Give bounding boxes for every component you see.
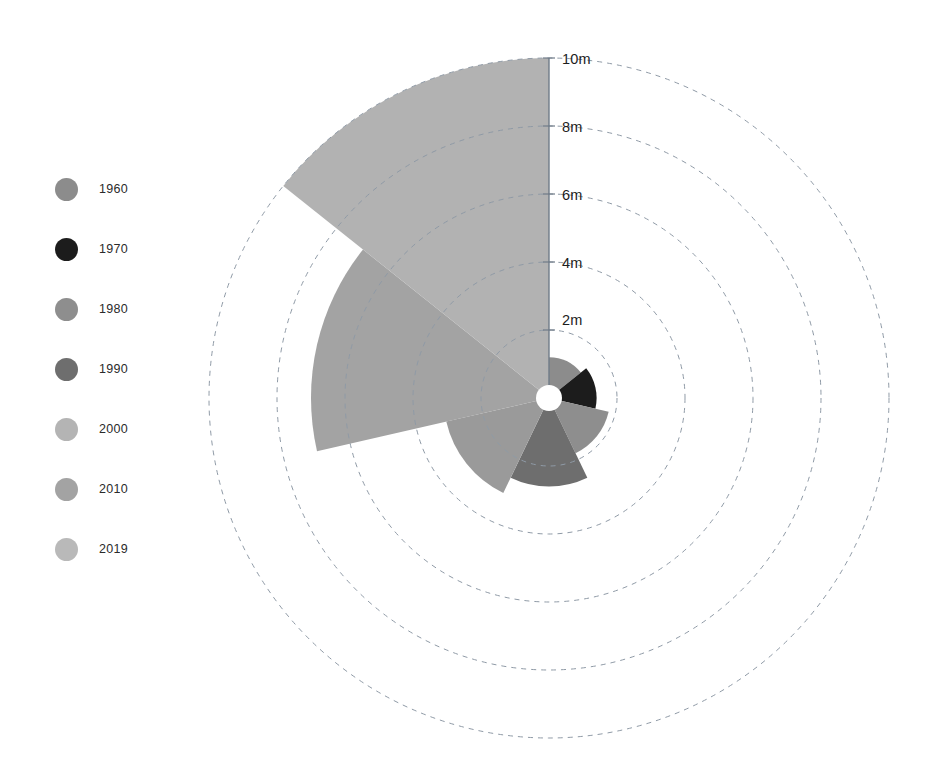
chart-center-hole [536, 385, 562, 411]
radial-tick-label-10m: 10m [562, 51, 591, 67]
legend-label: 1990 [99, 363, 128, 376]
legend-swatch-2000 [55, 418, 78, 441]
legend-item[interactable]: 2019 [55, 538, 195, 561]
radial-tick-label-6m: 6m [562, 187, 583, 203]
radial-tick-label-8m: 8m [562, 119, 583, 135]
legend-label: 1980 [99, 303, 128, 316]
radial-tick-label-2m: 2m [562, 312, 583, 328]
radial-tick-label-4m: 4m [562, 255, 583, 271]
legend-label: 1970 [99, 243, 128, 256]
legend-item[interactable]: 1960 [55, 178, 195, 201]
legend-item[interactable]: 1980 [55, 298, 195, 321]
legend-label: 1960 [99, 183, 128, 196]
legend-swatch-1970 [55, 238, 78, 261]
legend-swatch-2019 [55, 538, 78, 561]
legend-swatch-1990 [55, 358, 78, 381]
legend-swatch-2010 [55, 478, 78, 501]
legend-swatch-1960 [55, 178, 78, 201]
legend-item[interactable]: 1990 [55, 358, 195, 381]
wedge-group [283, 58, 608, 493]
legend-item[interactable]: 2000 [55, 418, 195, 441]
polar-area-chart: 10m 8m 6m 4m 2m 196019701980199020002010… [0, 0, 934, 775]
chart-legend: 1960197019801990200020102019 [55, 178, 195, 561]
legend-item[interactable]: 2010 [55, 478, 195, 501]
legend-label: 2010 [99, 483, 128, 496]
legend-item[interactable]: 1970 [55, 238, 195, 261]
legend-label: 2000 [99, 423, 128, 436]
legend-swatch-1980 [55, 298, 78, 321]
legend-label: 2019 [99, 543, 128, 556]
